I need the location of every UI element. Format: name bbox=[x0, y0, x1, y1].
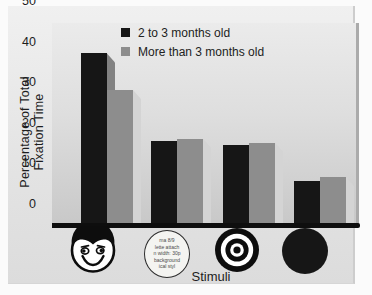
figure-canvas: Percentage of Total Fixation Time 010203… bbox=[0, 0, 372, 295]
y-tick-label: 20 bbox=[8, 116, 36, 130]
bar-more-than-3-months-smiling-face bbox=[107, 90, 133, 226]
bar-2to3months-smiling-face bbox=[81, 53, 107, 226]
chart-panel: Percentage of Total Fixation Time 010203… bbox=[8, 6, 355, 284]
bar-shadow bbox=[203, 139, 211, 226]
y-tick-label: 40 bbox=[8, 35, 36, 49]
x-axis-title: Stimuli bbox=[166, 269, 256, 284]
legend: 2 to 3 months old More than 3 months old bbox=[121, 23, 264, 61]
y-tick-label: 50 bbox=[8, 0, 36, 8]
bar-2to3months-newsprint-disc bbox=[151, 141, 177, 226]
bar-shadow bbox=[275, 143, 283, 226]
plain-circle-icon bbox=[282, 228, 328, 274]
bar-2to3months-plain-dark-circle bbox=[294, 181, 320, 226]
legend-label-series1: 2 to 3 months old bbox=[138, 26, 230, 40]
legend-item: 2 to 3 months old bbox=[121, 23, 264, 42]
legend-item: More than 3 months old bbox=[121, 42, 264, 61]
y-tick-label: 0 bbox=[8, 197, 36, 211]
legend-swatch-series2 bbox=[121, 47, 130, 56]
bullseye-icon bbox=[213, 226, 261, 274]
bar-shadow bbox=[133, 90, 141, 226]
y-tick-label: 30 bbox=[8, 75, 36, 89]
plot-area: 2 to 3 months old More than 3 months old bbox=[52, 23, 359, 226]
legend-swatch-series1 bbox=[121, 28, 130, 37]
bar-more-than-3-months-newsprint-disc bbox=[177, 139, 203, 226]
bar-more-than-3-months-bullseye bbox=[249, 143, 275, 226]
bar-shadow bbox=[346, 177, 354, 226]
y-tick-label: 10 bbox=[8, 156, 36, 170]
legend-label-series2: More than 3 months old bbox=[138, 45, 264, 59]
face-icon bbox=[69, 226, 117, 274]
bar-more-than-3-months-plain-dark-circle bbox=[320, 177, 346, 226]
bar-2to3months-bullseye bbox=[223, 145, 249, 226]
